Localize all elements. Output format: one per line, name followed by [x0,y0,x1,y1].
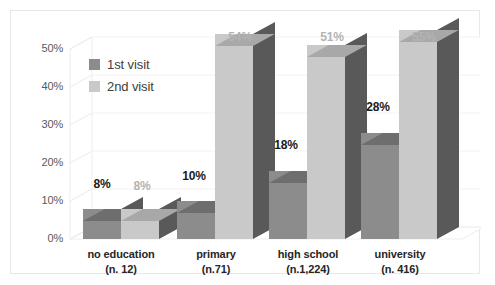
value-label-1st-no-education: 8% [83,177,121,191]
bar-2nd-visit-primary[interactable] [215,34,253,239]
value-label-1st-high-school: 18% [265,138,307,152]
legend-item-2nd-visit[interactable]: 2nd visit [89,75,154,97]
y-tick-10: 10% [29,194,63,206]
legend-label: 1st visit [107,57,149,72]
bar-2nd-visit-university[interactable] [399,30,437,239]
legend-item-1st-visit[interactable]: 1st visit [89,53,154,75]
plot-area: 50% 40% 30% 20% 10% 0% [11,11,481,275]
bar-1st-visit-university[interactable] [361,133,399,239]
legend-label: 2nd visit [107,79,154,94]
bar-1st-visit-primary[interactable] [177,201,215,239]
bar-1st-visit-high-school[interactable] [269,171,307,239]
chart-frame: 50% 40% 30% 20% 10% 0% [10,10,480,274]
bar-2nd-visit-no-education[interactable] [121,209,159,239]
x-label-university: university (n. 416) [342,247,458,277]
y-tick-50: 50% [29,42,63,54]
bar-front-face [361,133,399,239]
bar-2nd-visit-high-school[interactable] [307,45,345,239]
legend-swatch-icon [89,81,100,92]
value-label-2nd-high-school: 51% [311,30,353,44]
y-tick-20: 20% [29,156,63,168]
value-label-1st-university: 28% [357,100,399,114]
y-tick-40: 40% [29,80,63,92]
x-label-line2: (n. 416) [342,262,458,277]
y-tick-30: 30% [29,118,63,130]
legend-swatch-icon [89,59,100,70]
y-tick-0: 0% [29,232,63,244]
value-label-1st-primary: 10% [173,169,215,183]
value-label-2nd-university: 55% [403,30,445,44]
bar-front-face [307,45,345,239]
value-label-2nd-primary: 54% [219,30,261,44]
bar-1st-visit-no-education[interactable] [83,209,121,239]
bar-front-face [399,30,437,239]
value-label-2nd-no-education: 8% [123,179,161,193]
x-label-line1: university [342,247,458,262]
chart-legend: 1st visit 2nd visit [89,53,154,97]
bar-side-face [437,18,459,239]
bar-front-face [215,34,253,239]
